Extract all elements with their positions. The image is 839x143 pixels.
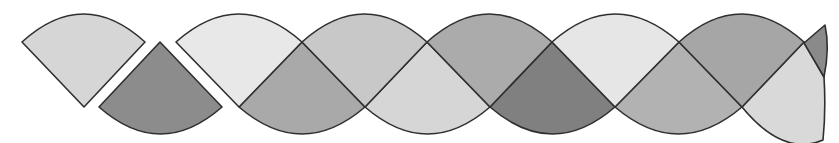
diagram-canvas	[0, 0, 839, 143]
braided-sector-diagram	[0, 0, 839, 143]
